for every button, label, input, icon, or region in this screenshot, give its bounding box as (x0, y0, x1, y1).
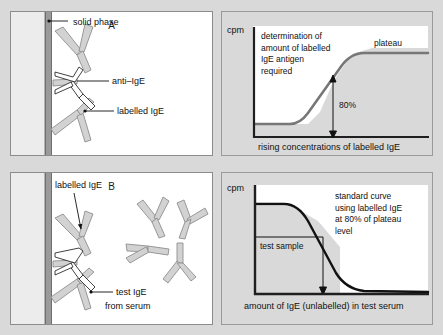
label-solid-phase: solid phase (73, 16, 119, 28)
leader-labelled-ige-b (74, 193, 81, 229)
bottom-chart-test-sample-label: test sample (260, 241, 303, 253)
top-chart-ylabel: cpm (227, 25, 244, 35)
bottom-chart-annotation-line-3: at 80% of plateau (335, 214, 402, 226)
bottom-chart-annotation-line-2: using labelled IgE (335, 203, 402, 215)
panel-top-chart: cpm determination of amount of labelled … (221, 11, 433, 156)
free-antibody-1 (137, 197, 169, 238)
top-chart-annotation: determination of amount of labelled IgE … (261, 31, 330, 77)
free-antibody-3 (126, 244, 169, 263)
label-test-ige-line1: test IgE (116, 286, 147, 298)
panel-a-diagram: A (10, 11, 213, 156)
panel-bottom-chart: cpm standard curve using labelled IgE at… (221, 172, 433, 325)
bottom-chart-annotation-line-4: level (335, 226, 402, 238)
bottom-chart-xlabel: amount of IgE (unlabelled) in test serum (244, 301, 404, 311)
labelled-ige-complex (55, 67, 95, 110)
top-chart-annotation-line-4: required (261, 66, 330, 78)
panel-b-diagram: B (10, 172, 213, 325)
top-chart-annotation-line-2: amount of labelled (261, 43, 330, 55)
label-test-ige-line2: from serum (105, 300, 151, 312)
bottom-chart-annotation: standard curve using labelled IgE at 80%… (335, 191, 402, 237)
top-chart-80-percent-label: 80% (339, 100, 356, 110)
label-labelled-ige-b: labelled IgE (55, 179, 102, 191)
top-chart-plateau-label: plateau (374, 38, 402, 50)
top-chart-annotation-line-1: determination of (261, 31, 330, 43)
figure-root: A (0, 0, 443, 335)
bottom-chart-ylabel: cpm (227, 183, 244, 193)
free-antibody-2 (177, 200, 208, 239)
bottom-chart-annotation-line-1: standard curve (335, 191, 402, 203)
label-labelled-ige-a: labelled IgE (117, 105, 164, 117)
anti-ige-antibody-upper (55, 24, 93, 73)
top-chart-xlabel: rising concentrations of labelled IgE (258, 142, 400, 152)
label-anti-ige: anti–IgE (112, 75, 145, 87)
top-chart-annotation-line-3: IgE antigen (261, 54, 330, 66)
